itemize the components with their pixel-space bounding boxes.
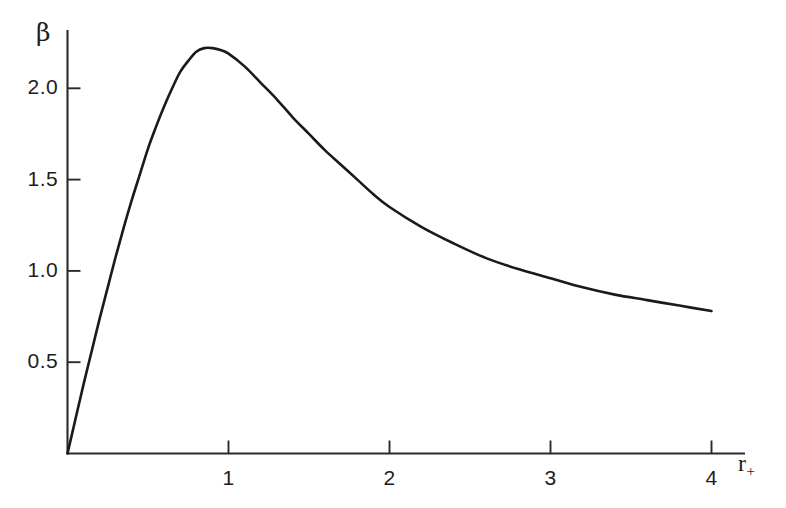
x-axis-title: r+ [738, 450, 755, 480]
y-tick-label: 1.5 [14, 167, 58, 191]
x-axis-title-subscript: + [746, 463, 755, 479]
data-curve [68, 48, 712, 454]
plot-area [0, 0, 786, 508]
y-axis-title: β [36, 18, 50, 47]
x-tick-label: 1 [204, 466, 254, 490]
y-tick-label: 0.5 [14, 349, 58, 373]
x-axis-title-base: r [738, 450, 746, 476]
x-tick-marks [229, 441, 712, 454]
x-tick-label: 4 [687, 466, 737, 490]
figure-canvas: β r+ 0.51.01.52.0 1234 [0, 0, 786, 508]
x-tick-label: 2 [365, 466, 415, 490]
y-tick-marks [68, 88, 81, 362]
y-tick-label: 1.0 [14, 258, 58, 282]
x-tick-label: 3 [526, 466, 576, 490]
y-tick-label: 2.0 [14, 75, 58, 99]
